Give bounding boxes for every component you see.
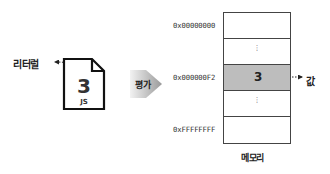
memory-cell: ⋮ (224, 39, 290, 65)
memory-block: ⋮ 3 ⋮ (223, 12, 291, 144)
memory-cell: ⋮ (224, 91, 290, 117)
address-label-value: 0x000000F2 (173, 73, 215, 82)
file-extension-label: JS (72, 98, 96, 106)
memory-cell (224, 117, 290, 143)
address-label-end: 0xFFFFFFFF (173, 125, 215, 134)
memory-cell (224, 13, 290, 39)
ellipsis-icon: ⋮ (224, 47, 290, 50)
evaluation-label: 평가 (135, 78, 150, 91)
memory-cell-highlighted: 3 (224, 65, 290, 91)
memory-cell-value: 3 (254, 70, 262, 84)
ellipsis-icon: ⋮ (224, 99, 290, 102)
memory-title: 메모리 (241, 151, 264, 164)
value-label: 값 (306, 73, 315, 88)
address-label-start: 0x00000000 (173, 21, 215, 30)
literal-value: 3 (72, 74, 96, 98)
